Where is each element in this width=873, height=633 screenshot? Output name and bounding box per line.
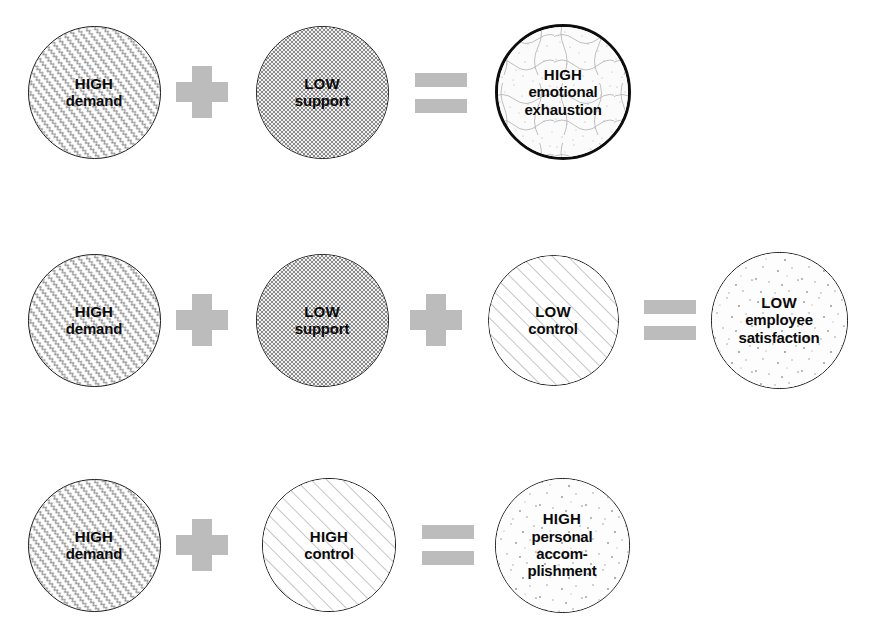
node-low-support: LOWsupport bbox=[256, 26, 389, 159]
equals-top-bar bbox=[422, 525, 474, 539]
label-line: LOW bbox=[295, 303, 349, 320]
plus-vertical-bar bbox=[192, 294, 212, 346]
label-line: LOW bbox=[739, 294, 820, 311]
equals-bottom-bar bbox=[644, 326, 696, 340]
label-line: HIGH bbox=[66, 303, 122, 320]
equals-operator-icon bbox=[415, 73, 467, 113]
plus-vertical-bar bbox=[426, 294, 446, 346]
plus-operator-icon bbox=[176, 519, 228, 571]
equals-top-bar bbox=[644, 300, 696, 314]
node-label-high-demand: HIGHdemand bbox=[62, 528, 126, 563]
label-line: emotional bbox=[524, 83, 601, 100]
label-line: satisfaction bbox=[739, 329, 820, 346]
node-label-high-demand: HIGHdemand bbox=[62, 303, 126, 338]
plus-operator-icon bbox=[176, 66, 228, 118]
label-line: HIGH bbox=[66, 75, 122, 92]
node-high-demand: HIGHdemand bbox=[28, 254, 161, 387]
node-label-low-control: LOWcontrol bbox=[524, 303, 581, 338]
node-label-high-personal-accomplishment: HIGHpersonalaccom-plishment bbox=[523, 510, 600, 580]
node-label-high-emotional-exhaustion: HIGHemotionalexhaustion bbox=[520, 66, 605, 118]
plus-vertical-bar bbox=[192, 66, 212, 118]
label-line: HIGH bbox=[66, 528, 122, 545]
node-high-personal-accomplishment: HIGHpersonalaccom-plishment bbox=[495, 478, 630, 613]
node-high-demand: HIGHdemand bbox=[28, 479, 161, 612]
equals-bottom-bar bbox=[422, 551, 474, 565]
label-line: control bbox=[304, 545, 353, 562]
node-high-emotional-exhaustion: HIGHemotionalexhaustion bbox=[495, 24, 631, 160]
label-line: LOW bbox=[528, 303, 577, 320]
label-line: demand bbox=[66, 320, 122, 337]
equals-top-bar bbox=[415, 73, 467, 87]
node-low-control: LOWcontrol bbox=[488, 255, 619, 386]
label-line: support bbox=[295, 320, 349, 337]
plus-operator-icon bbox=[176, 294, 228, 346]
node-label-low-support: LOWsupport bbox=[291, 75, 353, 110]
label-line: plishment bbox=[527, 562, 596, 579]
label-line: personal bbox=[527, 528, 596, 545]
label-line: demand bbox=[66, 92, 122, 109]
label-line: employee bbox=[739, 311, 820, 328]
label-line: demand bbox=[66, 545, 122, 562]
node-high-control: HIGHcontrol bbox=[262, 478, 396, 612]
label-line: accom- bbox=[527, 545, 596, 562]
node-label-high-demand: HIGHdemand bbox=[62, 75, 126, 110]
equals-operator-icon bbox=[644, 300, 696, 340]
plus-operator-icon bbox=[410, 294, 462, 346]
node-label-low-employee-satisfaction: LOWemployeesatisfaction bbox=[735, 294, 824, 346]
node-low-employee-satisfaction: LOWemployeesatisfaction bbox=[711, 252, 848, 389]
label-line: HIGH bbox=[524, 66, 601, 83]
node-label-low-support: LOWsupport bbox=[291, 303, 353, 338]
node-label-high-control: HIGHcontrol bbox=[300, 528, 357, 563]
label-line: control bbox=[528, 320, 577, 337]
label-line: HIGH bbox=[304, 528, 353, 545]
label-line: LOW bbox=[295, 75, 349, 92]
node-low-support: LOWsupport bbox=[256, 254, 389, 387]
label-line: exhaustion bbox=[524, 101, 601, 118]
demand-control-support-diagram: HIGHdemandLOWsupportHIGHemotionalexhaust… bbox=[0, 0, 873, 633]
label-line: support bbox=[295, 92, 349, 109]
equals-bottom-bar bbox=[415, 99, 467, 113]
equals-operator-icon bbox=[422, 525, 474, 565]
node-high-demand: HIGHdemand bbox=[28, 26, 161, 159]
plus-vertical-bar bbox=[192, 519, 212, 571]
label-line: HIGH bbox=[527, 510, 596, 527]
